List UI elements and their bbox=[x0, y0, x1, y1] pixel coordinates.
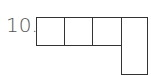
cell-1 bbox=[36, 17, 65, 46]
cell-3 bbox=[92, 17, 122, 46]
problem-number: 10. bbox=[6, 14, 38, 36]
cell-4-tall bbox=[121, 17, 148, 75]
cell-2 bbox=[64, 17, 94, 46]
